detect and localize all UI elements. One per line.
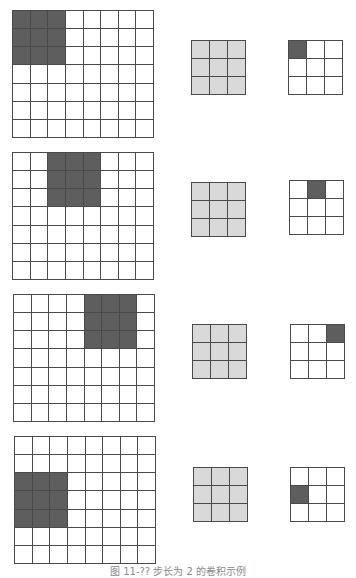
input-cell bbox=[121, 528, 139, 546]
input-cell bbox=[48, 84, 66, 102]
input-cell bbox=[101, 262, 119, 280]
output-cell bbox=[290, 181, 308, 199]
input-cell bbox=[120, 386, 138, 404]
input-cell bbox=[101, 120, 119, 138]
input-cell bbox=[101, 207, 119, 225]
input-cell bbox=[84, 120, 102, 138]
input-cell bbox=[31, 262, 49, 280]
receptive-field-cell bbox=[120, 331, 138, 349]
output-cell bbox=[291, 468, 309, 486]
output-cell bbox=[289, 59, 307, 77]
receptive-field-cell bbox=[120, 313, 138, 331]
input-cell bbox=[66, 29, 84, 47]
output-cell bbox=[309, 504, 327, 522]
output-cell bbox=[327, 468, 345, 486]
input-cell bbox=[136, 262, 154, 280]
input-cell bbox=[137, 404, 155, 422]
input-cell bbox=[121, 473, 139, 491]
input-cell bbox=[14, 386, 32, 404]
output-active-cell bbox=[289, 41, 307, 59]
input-cell bbox=[48, 65, 66, 83]
input-cell bbox=[50, 546, 68, 564]
input-cell bbox=[84, 29, 102, 47]
input-cell bbox=[84, 11, 102, 29]
input-cell bbox=[31, 153, 49, 171]
kernel-cell bbox=[211, 361, 229, 379]
receptive-field-cell bbox=[15, 510, 33, 528]
input-cell bbox=[33, 546, 51, 564]
input-cell bbox=[13, 226, 31, 244]
input-cell bbox=[101, 65, 119, 83]
input-cell bbox=[103, 528, 121, 546]
input-cell bbox=[32, 349, 50, 367]
input-cell bbox=[103, 491, 121, 509]
input-cell bbox=[49, 313, 67, 331]
input-cell bbox=[101, 84, 119, 102]
output-cell bbox=[327, 486, 345, 504]
input-cell bbox=[136, 102, 154, 120]
input-cell bbox=[49, 349, 67, 367]
input-cell bbox=[13, 65, 31, 83]
kernel-cell bbox=[192, 59, 210, 77]
kernel-cell bbox=[192, 201, 210, 219]
kernel-cell bbox=[228, 183, 246, 201]
input-cell bbox=[67, 349, 85, 367]
input-cell bbox=[49, 331, 67, 349]
input-cell bbox=[67, 331, 85, 349]
input-grid-step-3 bbox=[13, 294, 155, 422]
input-cell bbox=[85, 368, 103, 386]
kernel-cell bbox=[210, 41, 228, 59]
input-cell bbox=[119, 65, 137, 83]
receptive-field-cell bbox=[66, 189, 84, 207]
kernel-cell bbox=[193, 325, 211, 343]
input-cell bbox=[68, 455, 86, 473]
input-cell bbox=[85, 386, 103, 404]
input-cell bbox=[13, 153, 31, 171]
receptive-field-cell bbox=[31, 29, 49, 47]
kernel-cell bbox=[230, 486, 248, 504]
input-cell bbox=[31, 189, 49, 207]
input-cell bbox=[13, 120, 31, 138]
input-cell bbox=[66, 244, 84, 262]
kernel-grid-step-3 bbox=[192, 324, 247, 379]
output-cell bbox=[326, 181, 344, 199]
receptive-field-cell bbox=[50, 473, 68, 491]
kernel-cell bbox=[212, 486, 230, 504]
input-cell bbox=[84, 207, 102, 225]
kernel-cell bbox=[194, 468, 212, 486]
receptive-field-cell bbox=[13, 29, 31, 47]
input-cell bbox=[13, 102, 31, 120]
input-cell bbox=[32, 386, 50, 404]
kernel-cell bbox=[211, 343, 229, 361]
input-cell bbox=[120, 368, 138, 386]
input-cell bbox=[136, 84, 154, 102]
kernel-cell bbox=[211, 325, 229, 343]
input-cell bbox=[138, 528, 156, 546]
input-cell bbox=[13, 207, 31, 225]
input-cell bbox=[137, 349, 155, 367]
input-cell bbox=[85, 404, 103, 422]
kernel-cell bbox=[212, 468, 230, 486]
input-cell bbox=[119, 171, 137, 189]
output-cell bbox=[291, 361, 309, 379]
receptive-field-cell bbox=[66, 153, 84, 171]
input-cell bbox=[15, 437, 33, 455]
kernel-cell bbox=[229, 343, 247, 361]
input-cell bbox=[119, 153, 137, 171]
input-cell bbox=[119, 120, 137, 138]
kernel-cell bbox=[210, 219, 228, 237]
input-cell bbox=[119, 11, 137, 29]
input-cell bbox=[138, 437, 156, 455]
input-cell bbox=[138, 455, 156, 473]
input-cell bbox=[136, 120, 154, 138]
output-grid-step-4 bbox=[290, 467, 345, 522]
input-cell bbox=[48, 262, 66, 280]
kernel-cell bbox=[193, 343, 211, 361]
input-cell bbox=[103, 455, 121, 473]
input-cell bbox=[138, 473, 156, 491]
input-cell bbox=[13, 171, 31, 189]
output-cell bbox=[309, 325, 327, 343]
input-cell bbox=[137, 331, 155, 349]
input-cell bbox=[101, 226, 119, 244]
input-cell bbox=[33, 437, 51, 455]
